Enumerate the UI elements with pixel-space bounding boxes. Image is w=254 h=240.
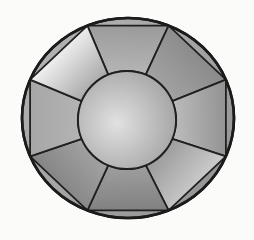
halftone-grain [0, 0, 254, 240]
gem-top-view-svg [0, 0, 254, 240]
gem-illustration [0, 0, 254, 240]
